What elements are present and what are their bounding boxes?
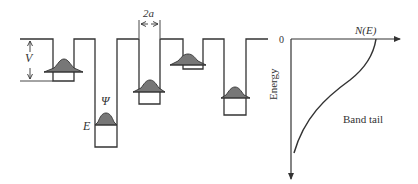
wavepacket-2 [95, 113, 117, 125]
depth-label-v: V [25, 52, 32, 64]
wavefunction-label-psi: Ψ [101, 95, 109, 107]
energy-levels [44, 65, 250, 125]
wavepackets [44, 54, 250, 125]
x-axis-label: N(E) [355, 25, 376, 36]
dos-axes [291, 39, 400, 179]
wavepacket-1 [44, 59, 83, 72]
y-axis-label: Energy [268, 68, 279, 100]
wavepacket-4 [170, 54, 206, 65]
energy-level-label-e: E [83, 120, 90, 132]
band-tail-curve [294, 39, 376, 153]
width-2a-indicator [139, 20, 160, 38]
band-tail-label: Band tail [343, 114, 383, 125]
origin-label: 0 [279, 35, 284, 45]
well-width-label-2a: 2a [143, 8, 154, 19]
